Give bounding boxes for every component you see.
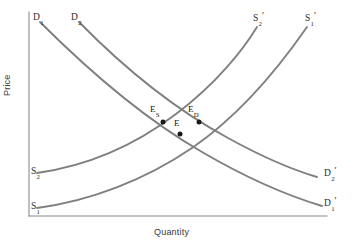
equilibrium-label-ed-sub: D — [194, 111, 199, 118]
curve-label-d1-prime: D1′ — [324, 199, 337, 209]
equilibrium-label-es-sub: S — [156, 111, 160, 118]
curve-label-d2-text: D — [71, 12, 78, 22]
curve-label-s1-prime: S1′ — [305, 14, 316, 24]
prime-mark: ′ — [262, 11, 264, 21]
equilibrium-label-ed-text: E — [188, 104, 194, 114]
curve-label-s2-text: S — [31, 166, 36, 176]
prime-mark: ′ — [314, 11, 316, 21]
curve-label-s1: S1 — [31, 202, 40, 212]
curve-label-d2-prime-text: D — [324, 168, 331, 178]
curve-label-s2-sub: 2 — [37, 173, 41, 180]
curve-label-d2: D2 — [71, 13, 81, 23]
curve-label-d2-sub: 2 — [78, 19, 82, 26]
equilibrium-supply-marker — [161, 120, 166, 125]
curve-label-s2-prime: S2′ — [253, 14, 264, 24]
demand-curve-2 — [79, 22, 317, 177]
equilibrium-label-e-text: E — [174, 118, 180, 128]
curve-label-d1-prime-text: D — [324, 198, 331, 208]
supply-demand-figure: D1 D2 S2′ S1′ S2 S1 D2′ D1′ ES ED E Pric… — [0, 0, 356, 245]
supply-curve-2 — [37, 27, 257, 173]
curve-label-s1-prime-text: S — [305, 13, 310, 23]
demand-curve-1 — [40, 22, 322, 206]
equilibrium-label-ed: ED — [188, 105, 199, 114]
curve-label-d1-sub: 1 — [40, 19, 44, 26]
equilibrium-label-es-text: E — [150, 104, 156, 114]
equilibrium-original-marker — [178, 132, 183, 137]
prime-mark: ′ — [335, 196, 337, 206]
y-axis-title: Price — [2, 74, 12, 96]
equilibrium-demand-marker — [197, 120, 202, 125]
curve-label-s2-prime-text: S — [253, 13, 258, 23]
equilibrium-label-e: E — [174, 119, 180, 128]
curve-label-d1: D1 — [33, 13, 43, 23]
curve-label-s1-text: S — [31, 201, 36, 211]
curve-label-s1-sub: 1 — [37, 208, 41, 215]
curve-label-s2: S2 — [31, 167, 40, 177]
equilibrium-label-es: ES — [150, 105, 160, 114]
curve-label-d2-prime: D2′ — [324, 169, 337, 179]
curve-label-d1-text: D — [33, 12, 40, 22]
prime-mark: ′ — [335, 166, 337, 176]
x-axis-title: Quantity — [154, 227, 189, 237]
